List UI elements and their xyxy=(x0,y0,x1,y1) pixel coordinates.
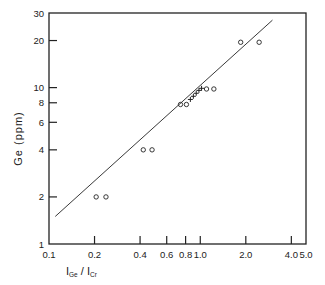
cross-marker xyxy=(188,97,193,102)
regression-line xyxy=(55,20,272,216)
y-axis-ticks: 12468102030 xyxy=(33,8,57,250)
circle-marker xyxy=(141,148,145,152)
y-tick-label: 10 xyxy=(33,82,44,93)
circle-marker xyxy=(94,195,98,199)
cross-marker xyxy=(194,91,199,96)
circle-marker xyxy=(150,148,154,152)
plot-frame xyxy=(49,13,306,244)
circle-marker xyxy=(257,40,261,44)
y-tick-label: 8 xyxy=(39,97,44,108)
circle-marker xyxy=(204,87,208,91)
x-tick-label: 0.2 xyxy=(88,249,101,260)
circle-marker xyxy=(212,87,216,91)
x-axis-ticks: 0.10.20.40.60.81.02.04.05.0 xyxy=(42,236,312,260)
data-points xyxy=(94,40,261,199)
x-axis-title: IGe / ICr xyxy=(66,265,98,278)
fit-line xyxy=(55,20,272,216)
cross-marker xyxy=(191,94,196,99)
x-tick-label: 0.6 xyxy=(160,249,173,260)
x-tick-label: 2.0 xyxy=(239,249,252,260)
y-tick-label: 1 xyxy=(39,239,44,250)
y-tick-label: 20 xyxy=(33,35,44,46)
y-axis-label: Ge (ppm) xyxy=(12,111,24,165)
y-tick-label: 30 xyxy=(33,8,44,19)
plot-border xyxy=(49,13,306,244)
x-tick-label: 0.4 xyxy=(133,249,146,260)
y-tick-label: 4 xyxy=(39,144,44,155)
x-axis-label: IGe / ICr xyxy=(66,265,98,278)
circle-marker xyxy=(104,195,108,199)
y-axis-title: Ge (ppm) xyxy=(12,111,24,165)
x-tick-label: 5.0 xyxy=(299,249,312,260)
circle-marker xyxy=(238,40,242,44)
y-tick-label: 2 xyxy=(39,191,44,202)
x-tick-label: 0.1 xyxy=(42,249,55,260)
circle-marker xyxy=(184,102,188,106)
x-tick-label: 0.8 xyxy=(179,249,192,260)
x-tick-label: 4.0 xyxy=(285,249,298,260)
x-tick-label: 1.0 xyxy=(194,249,207,260)
log-log-scatter-chart: 0.10.20.40.60.81.02.04.05.0 12468102030 … xyxy=(0,0,325,285)
y-tick-label: 6 xyxy=(39,117,44,128)
